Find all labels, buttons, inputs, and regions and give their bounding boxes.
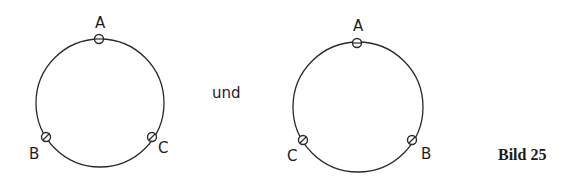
left-label-a: A bbox=[95, 14, 106, 32]
left-label-b: B bbox=[29, 145, 39, 163]
right-label-b: B bbox=[421, 145, 431, 163]
connector-text: und bbox=[212, 84, 241, 102]
figure-caption: Bild 25 bbox=[498, 146, 546, 164]
left-ring-circle bbox=[36, 39, 164, 167]
diagram-canvas: A B C A C B bbox=[0, 0, 581, 182]
left-ring-diagram: A B C bbox=[29, 14, 168, 167]
right-ring-diagram: A C B bbox=[287, 17, 431, 172]
right-label-c: C bbox=[287, 147, 297, 165]
right-ring-circle bbox=[293, 42, 423, 172]
left-label-c: C bbox=[158, 139, 168, 157]
right-label-a: A bbox=[353, 17, 364, 35]
